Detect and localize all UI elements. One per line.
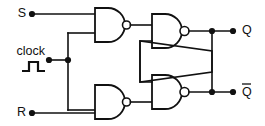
q-output-label: Q: [242, 23, 252, 37]
r-terminal-dot[interactable]: [29, 110, 35, 116]
r-input-label: R: [17, 105, 26, 119]
q-junction-dot: [209, 28, 215, 34]
qbar-junction-dot: [209, 89, 215, 95]
nand-gate-q-bubble: [180, 27, 189, 36]
clock-terminal-dot[interactable]: [46, 57, 52, 63]
clock-input-label: clock: [17, 44, 46, 58]
s-input-label: S: [18, 6, 26, 20]
qbar-terminal-dot[interactable]: [230, 89, 236, 95]
clock-junction-dot: [65, 57, 71, 63]
nand-gate-qbar-bubble: [180, 88, 189, 97]
nand-gate-r-body: [95, 85, 125, 119]
nand-gate-r-bubble: [123, 98, 131, 106]
clock-pulse-icon: [22, 62, 45, 71]
circuit-diagram-root: S clock R Q Q: [0, 0, 265, 126]
q-terminal-dot[interactable]: [230, 28, 236, 34]
qbar-output-label: Q: [242, 85, 252, 99]
nand-gate-s-body: [95, 8, 125, 42]
sr-latch-schematic: S clock R Q Q: [0, 0, 265, 126]
s-terminal-dot[interactable]: [29, 11, 35, 17]
nand-gate-s-bubble: [123, 21, 131, 29]
